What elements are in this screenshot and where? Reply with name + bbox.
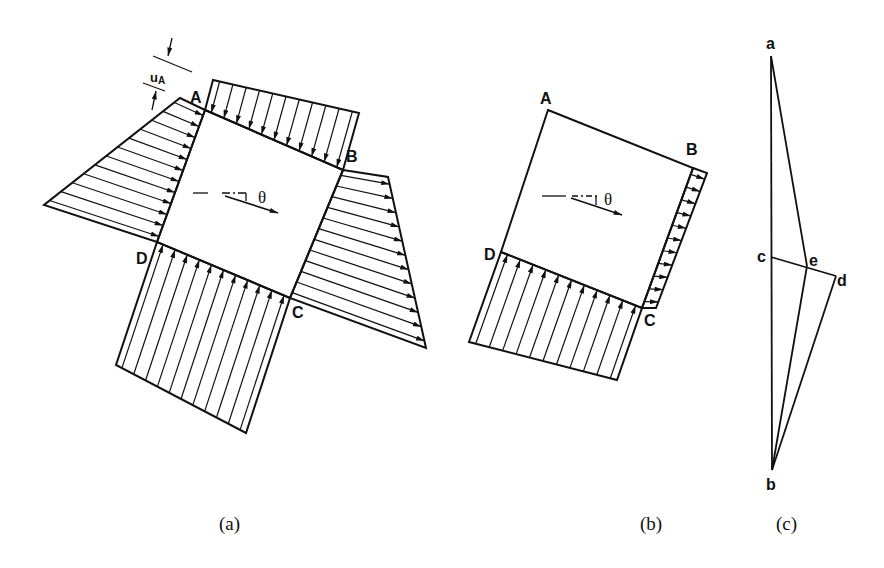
caption-a: (a) xyxy=(219,513,240,535)
caption-b: (b) xyxy=(640,513,662,535)
stress-block-left xyxy=(44,98,205,242)
stress-block-top xyxy=(205,80,359,170)
theta-label: θ xyxy=(258,188,266,207)
point-C-label: C xyxy=(644,312,656,329)
stress-block-bottom xyxy=(469,252,642,380)
point-a-label: a xyxy=(766,35,775,52)
figure-canvas: θ uA A B C D (a) xyxy=(0,0,884,568)
caption-c: (c) xyxy=(776,513,797,535)
point-C-label: C xyxy=(292,304,304,321)
point-D-label: D xyxy=(136,250,148,267)
point-B-label: B xyxy=(346,148,358,165)
point-A-label: A xyxy=(190,89,202,106)
panel-c: a b c d e (c) xyxy=(757,35,847,535)
angle-indicator: θ xyxy=(542,190,622,215)
point-d-label: d xyxy=(837,272,847,289)
angle-indicator: θ xyxy=(193,188,278,213)
stress-block-right xyxy=(290,170,426,348)
velocity-diagram xyxy=(771,56,836,470)
stress-block-bottom xyxy=(116,242,290,433)
panel-b: θ A B C D (b) xyxy=(469,90,707,535)
point-A-label: A xyxy=(540,90,552,107)
point-D-label: D xyxy=(484,246,496,263)
point-b-label: b xyxy=(766,476,776,493)
point-B-label: B xyxy=(686,141,698,158)
element-square xyxy=(501,110,693,308)
stress-block-right xyxy=(642,168,707,308)
point-e-label: e xyxy=(809,252,818,269)
panel-a: θ uA A B C D (a) xyxy=(44,38,426,535)
point-c-label: c xyxy=(757,248,766,265)
ua-label: uA xyxy=(150,70,165,86)
theta-label: θ xyxy=(604,190,612,209)
